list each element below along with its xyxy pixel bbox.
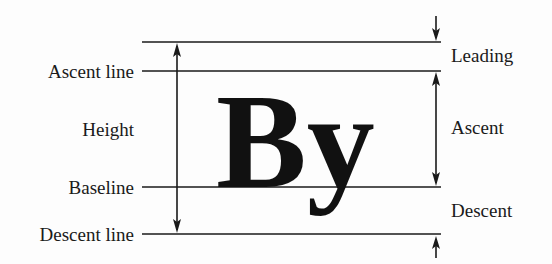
label-height: Height [82, 119, 134, 140]
label-leading: Leading [451, 45, 514, 66]
label-descent: Descent [451, 200, 513, 221]
sample-glyphs: By [216, 66, 375, 216]
ascent-arrow [432, 72, 440, 186]
label-descent-line: Descent line [40, 224, 134, 245]
diagram-svg: By Ascent line Height Baseline Descent l… [0, 0, 552, 264]
label-baseline: Baseline [69, 177, 134, 198]
label-ascent: Ascent [451, 117, 504, 138]
descent-arrow [432, 236, 440, 258]
leading-arrow [432, 16, 440, 41]
label-ascent-line: Ascent line [48, 61, 134, 82]
font-metrics-diagram: By Ascent line Height Baseline Descent l… [0, 0, 552, 264]
